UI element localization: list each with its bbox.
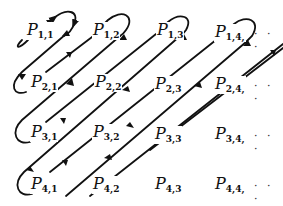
label-p-4-4: P4,4, (214, 176, 246, 194)
label-p-2-4: P2,4, (214, 76, 246, 94)
row-2-continuation: · · · (254, 80, 283, 106)
label-p-3-3: P3,3 (154, 126, 182, 144)
label-p-1-3: P1,3 (156, 22, 184, 40)
label-p-3-1: P3,1 (30, 124, 58, 142)
label-p-3-4: P3,4, (214, 126, 246, 144)
row-4-continuation: · · · (254, 180, 283, 206)
label-p-1-1: P1,1 (26, 22, 54, 40)
label-p-1-4: P1,4, (214, 24, 246, 42)
label-p-4-3: P4,3 (154, 176, 182, 194)
label-p-2-2: P2,2 (94, 74, 122, 92)
label-p-3-2: P3,2 (92, 124, 120, 142)
label-p-1-2: P1,2 (92, 22, 120, 40)
label-p-2-1: P2,1 (30, 74, 58, 92)
label-p-2-3: P2,3 (154, 76, 182, 94)
label-p-4-1: P4,1 (30, 176, 58, 194)
label-p-4-2: P4,2 (92, 176, 120, 194)
row-3-continuation: · · · (254, 130, 283, 156)
row-1-continuation: · · · (254, 28, 283, 54)
diagonal-enumeration-diagram: P1,1 P1,2 P1,3 P1,4, · · · P2,1 P2,2 P2,… (0, 0, 283, 206)
